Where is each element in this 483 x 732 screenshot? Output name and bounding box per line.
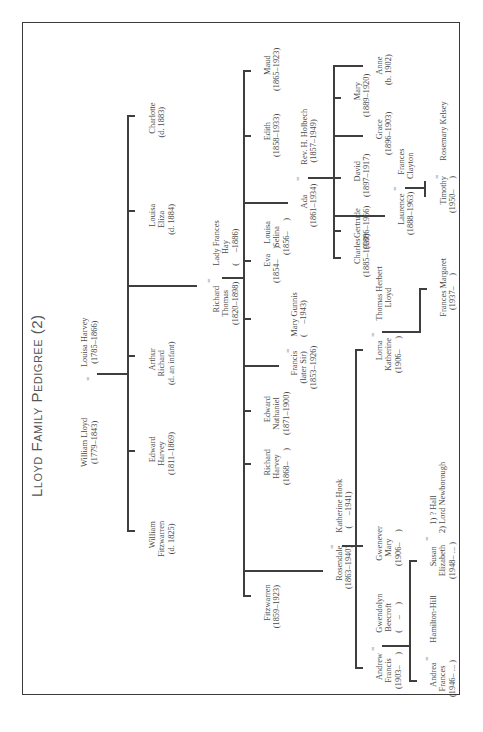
- drop-line: [409, 560, 417, 562]
- drop-line: [243, 70, 251, 72]
- drop-line: [333, 257, 341, 259]
- drop-line: [127, 285, 197, 287]
- marriage-symbol: =: [369, 646, 378, 651]
- marriage-symbol: =: [423, 656, 432, 661]
- person-louisa-harvey: Louisa Harvey(1785–1866): [80, 317, 99, 367]
- drop-line: [355, 667, 363, 669]
- marriage-symbol: =: [284, 348, 293, 353]
- person-gwenever-mary: Gwenever Mary(1906– ): [365, 526, 422, 569]
- descent-line: [222, 277, 244, 279]
- marriage-symbol: =: [423, 536, 432, 541]
- drop-line: [243, 410, 251, 412]
- drop-line: [127, 210, 135, 212]
- pedigree-diagram: Lloyd Family Pedigree (2) William Lloyd(…: [22, 22, 462, 697]
- person-gertrude: Gertrude(1886–1966): [343, 206, 391, 249]
- drop-line: [243, 202, 288, 204]
- descent-line: [382, 331, 420, 333]
- person-laurence: Laurence(1888–1963): [387, 192, 435, 235]
- descent-line: [382, 645, 410, 647]
- drop-line: [243, 318, 251, 320]
- person-ada: Ada(1861–1934): [290, 184, 338, 227]
- drop-line: [127, 355, 135, 357]
- connector: [419, 289, 421, 333]
- drop-line: [127, 530, 135, 532]
- person-william-lloyd: William Lloyd(1779–1843): [80, 418, 99, 467]
- person-andrew-francis: Andrew Francis(1903– ): [365, 652, 422, 689]
- person-richard-harvey: Richard Harvey(1868– ): [253, 448, 310, 485]
- marriage-symbol: =: [328, 544, 337, 549]
- person-hamilton-hill: Hamilton-Hill: [419, 595, 448, 651]
- person-edith: Edith(1858–1933): [253, 114, 301, 157]
- sibling-bar: [127, 117, 129, 532]
- person-susan-spouses: 1) ? Hall 2) Lord Newborough: [419, 462, 457, 533]
- person-susan-elizabeth: Susan Elizabeth(1948– ... ): [419, 542, 476, 579]
- drop-line: [243, 595, 251, 597]
- person-arthur-richard: Arthur Richard(d. an infant): [138, 342, 195, 386]
- marriage-symbol: =: [205, 278, 214, 283]
- drop-line: [127, 450, 135, 452]
- person-charlotte: Charlotte(d. 1883): [138, 102, 186, 142]
- descent-line: [342, 545, 356, 547]
- drop-line: [419, 288, 427, 290]
- person-grace: Grace(1896–1903): [365, 112, 413, 155]
- drop-line: [355, 349, 363, 351]
- drop-line: [243, 365, 279, 367]
- person-fitzwarren: Fitzwarren(1859–1923): [253, 584, 301, 629]
- marriage-symbol: =: [294, 176, 303, 181]
- descent-line: [97, 373, 128, 375]
- person-maud: Maud(1865–1923): [253, 48, 301, 91]
- drop-line: [333, 65, 363, 67]
- drop-line: [243, 570, 323, 572]
- person-david: David(1897–1917): [343, 154, 391, 197]
- marriage-symbol: =: [433, 174, 442, 179]
- drop-line: [243, 135, 251, 137]
- drop-line: [355, 545, 363, 547]
- person-william-fitzwarren: William Fitzwarren(d. 1825): [138, 521, 195, 557]
- drop-line: [333, 97, 341, 99]
- person-gwendolyn-beecroft: Gwendolyn Beecroft( – ): [365, 594, 422, 641]
- marriage-symbol: =: [369, 332, 378, 337]
- marriage-symbol: =: [391, 186, 400, 191]
- person-lady-frances-hay: Lady Frances Hay( –1886): [202, 220, 259, 274]
- descent-line: [308, 177, 334, 179]
- person-rosemary-kelsey: Rosemary Kelsey: [429, 101, 458, 169]
- marriage-symbol: =: [84, 376, 93, 381]
- person-frances-margaret: Frances Margaret(1937– ): [429, 258, 477, 325]
- person-lorna-katherine: Lorna Katherine(1906– ): [365, 336, 422, 373]
- person-timothy: Timothy(1950– ): [429, 176, 477, 213]
- person-edward-nathaniel: Edward Nathaniel(1871–1900): [253, 392, 310, 435]
- drop-line: [409, 680, 417, 682]
- sibling-bar: [355, 351, 357, 669]
- drop-line: [333, 135, 363, 137]
- diagram-title: Lloyd Family Pedigree (2): [28, 97, 45, 497]
- person-edward-harvey: Edward Harvey(1811–1869): [138, 432, 195, 475]
- person-mary-gunnis: Mary Gunnis( –1943): [280, 292, 328, 345]
- drop-line: [333, 230, 341, 232]
- sibling-bar: [409, 562, 411, 682]
- drop-line: [243, 260, 251, 262]
- person-andrea-frances: Andrea Frances(1946– ... ): [419, 660, 476, 697]
- drop-line: [127, 115, 135, 117]
- connector: [424, 181, 426, 197]
- drop-line: [333, 177, 341, 179]
- person-louisa-eliza: Louisa Eliza(d. 1884): [138, 204, 195, 235]
- sibling-bar: [243, 72, 245, 597]
- person-anne: Anne(b. 1902): [365, 54, 413, 85]
- drop-line: [243, 463, 251, 465]
- descent-line: [405, 187, 425, 189]
